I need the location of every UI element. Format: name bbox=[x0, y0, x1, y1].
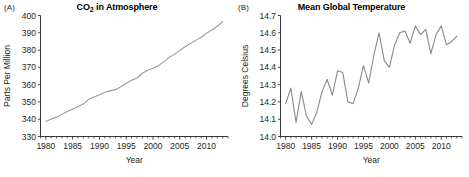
x-tick-label: 1990 bbox=[90, 141, 109, 151]
x-tick-label: 2000 bbox=[144, 141, 163, 151]
data-series-line bbox=[46, 22, 223, 122]
y-tick-label: 14.6 bbox=[259, 28, 276, 38]
y-tick-label: 14.1 bbox=[259, 114, 276, 124]
chart-plot-co2: 3303403503603703803904001980198519901995… bbox=[0, 0, 234, 177]
x-tick-label: 2005 bbox=[170, 141, 189, 151]
x-tick-label: 2005 bbox=[406, 141, 425, 151]
x-axis-title: Year bbox=[126, 155, 143, 165]
x-tick-label: 1980 bbox=[276, 141, 295, 151]
chart-plot-temperature: 14.014.114.214.314.414.514.614.719801985… bbox=[234, 0, 469, 177]
data-series-line bbox=[286, 26, 457, 125]
x-tick-label: 2010 bbox=[197, 141, 216, 151]
figure-container: (A) CO2 in Atmosphere 330340350360370380… bbox=[0, 0, 469, 177]
x-tick-label: 1985 bbox=[302, 141, 321, 151]
chart-panel-co2: (A) CO2 in Atmosphere 330340350360370380… bbox=[0, 0, 234, 177]
y-tick-label: 360 bbox=[22, 80, 36, 90]
y-tick-label: 14.7 bbox=[259, 11, 276, 21]
x-tick-label: 1995 bbox=[117, 141, 136, 151]
y-tick-label: 400 bbox=[22, 11, 36, 21]
y-axis-title: Parts Per Million bbox=[2, 45, 12, 107]
x-tick-label: 1995 bbox=[354, 141, 373, 151]
x-axis-title: Year bbox=[363, 155, 380, 165]
x-tick-label: 1985 bbox=[63, 141, 82, 151]
y-tick-label: 390 bbox=[22, 28, 36, 38]
y-tick-label: 350 bbox=[22, 97, 36, 107]
y-tick-label: 380 bbox=[22, 45, 36, 55]
y-tick-label: 330 bbox=[22, 132, 36, 142]
y-tick-label: 14.5 bbox=[259, 45, 276, 55]
y-tick-label: 14.2 bbox=[259, 97, 276, 107]
y-tick-label: 370 bbox=[22, 62, 36, 72]
x-tick-label: 2010 bbox=[432, 141, 451, 151]
y-tick-label: 14.4 bbox=[259, 62, 276, 72]
y-tick-label: 340 bbox=[22, 114, 36, 124]
chart-axes bbox=[41, 16, 229, 137]
y-tick-label: 14.3 bbox=[259, 80, 276, 90]
x-tick-label: 2000 bbox=[380, 141, 399, 151]
x-tick-label: 1990 bbox=[328, 141, 347, 151]
x-tick-label: 1980 bbox=[36, 141, 55, 151]
chart-panel-temperature: (B) Mean Global Temperature 14.014.114.2… bbox=[234, 0, 469, 177]
y-axis-title: Degrees Celsius bbox=[240, 45, 250, 107]
y-tick-label: 14.0 bbox=[259, 132, 276, 142]
